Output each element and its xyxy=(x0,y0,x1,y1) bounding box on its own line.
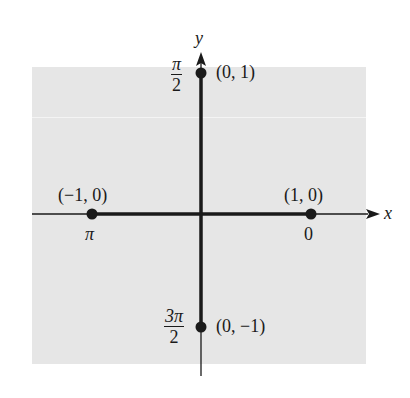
angle-label-0: 0 xyxy=(304,224,313,245)
point-neg1-0 xyxy=(87,209,98,220)
point-label-1-0: (1, 0) xyxy=(284,185,323,206)
angle-label-3pi-over-2: 3π 2 xyxy=(164,306,184,347)
point-0-neg1 xyxy=(196,322,207,333)
point-label-0-1: (0, 1) xyxy=(216,62,255,83)
point-0-1 xyxy=(196,68,207,79)
y-axis-label: y xyxy=(195,28,203,49)
x-axis-arrow-icon xyxy=(366,209,380,219)
point-1-0 xyxy=(306,209,317,220)
point-label-0-neg1: (0, −1) xyxy=(216,316,265,337)
angle-label-pi: π xyxy=(85,224,94,245)
x-axis-label: x xyxy=(384,203,392,224)
angle-label-pi-over-2: π 2 xyxy=(171,54,182,95)
point-label-neg1-0: (−1, 0) xyxy=(58,185,107,206)
